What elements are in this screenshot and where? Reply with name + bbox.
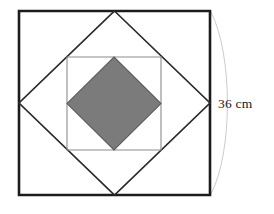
dimension-label-36-cm: 36 cm — [218, 96, 253, 111]
geometry-figure: 36 cm — [0, 0, 274, 214]
figure-canvas: 36 cm — [0, 0, 274, 214]
